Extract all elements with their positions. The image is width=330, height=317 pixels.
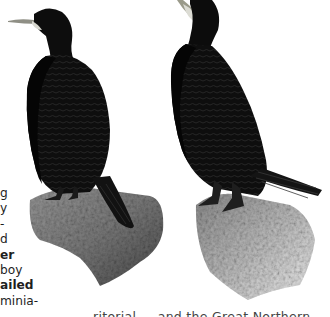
text-fragment: - — [0, 217, 40, 232]
bottom-text-line-cropped: ritorial ... and the Great Northern — [93, 309, 311, 317]
text-fragment-bold: ailed — [0, 278, 40, 293]
left-column-text-fragments: g y - d er boy ailed minia- — [0, 186, 40, 309]
left-rock — [30, 188, 164, 286]
text-fragment-bold: er — [0, 248, 40, 263]
right-cormorant — [171, 0, 322, 212]
right-rock — [196, 194, 315, 300]
text-fragment: d — [0, 232, 40, 247]
text-fragment: g — [0, 186, 40, 201]
text-fragment: minia- — [0, 294, 40, 309]
text-fragment: y — [0, 201, 40, 216]
cormorant-illustration — [0, 0, 330, 300]
text-fragment: boy — [0, 263, 40, 278]
book-page: g y - d er boy ailed minia- ritorial ...… — [0, 0, 330, 317]
